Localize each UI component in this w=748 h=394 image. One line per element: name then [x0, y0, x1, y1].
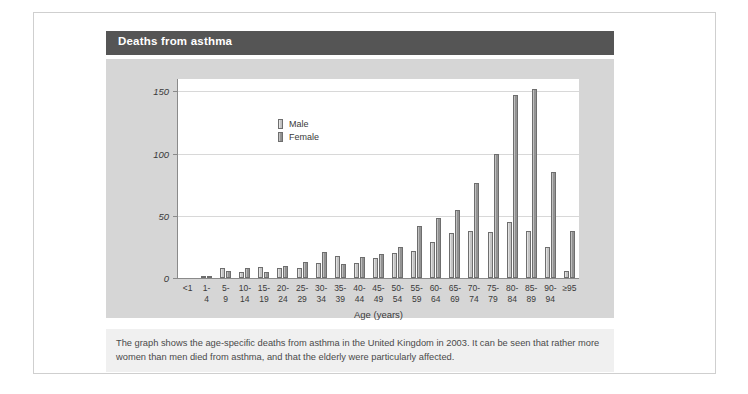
bar-female — [398, 247, 403, 278]
bar-group — [468, 79, 480, 278]
bar-group — [182, 79, 194, 278]
bar-male — [488, 232, 493, 278]
bar-male — [507, 222, 512, 278]
bar-female — [360, 257, 365, 278]
bar-female — [494, 154, 499, 278]
bar-group — [277, 79, 289, 278]
bar-group — [316, 79, 328, 278]
y-axis-tick-label: 0 — [164, 273, 169, 284]
bar-male — [201, 276, 206, 278]
bar-male — [354, 263, 359, 278]
bar-female — [417, 226, 422, 278]
x-axis-title: Age (years) — [178, 309, 579, 320]
figure-caption: The graph shows the age-specific deaths … — [106, 329, 614, 372]
bar-group — [335, 79, 347, 278]
bar-group — [488, 79, 500, 278]
bar-group — [526, 79, 538, 278]
chart-panel: 050100150 Male Female <11-45-910-1415-19… — [106, 59, 614, 318]
bar-male — [411, 251, 416, 278]
chart-title-bar: Deaths from asthma — [106, 31, 614, 55]
bar-female — [226, 271, 231, 278]
bar-male — [392, 253, 397, 278]
bar-male — [297, 268, 302, 278]
bar-male — [277, 268, 282, 278]
y-axis-tick-label: 150 — [153, 86, 169, 97]
bar-female — [551, 172, 556, 278]
bar-female — [513, 95, 518, 278]
bar-male — [220, 268, 225, 278]
bar-group — [392, 79, 404, 278]
figure-caption-text: The graph shows the age-specific deaths … — [116, 336, 604, 364]
bar-male — [449, 233, 454, 278]
bar-group — [545, 79, 557, 278]
bar-group — [373, 79, 385, 278]
bar-group — [354, 79, 366, 278]
bar-female — [303, 262, 308, 278]
bar-female — [245, 268, 250, 278]
page-title: Deaths from asthma — [118, 35, 232, 47]
figure-card: Deaths from asthma 050100150 Male Female… — [33, 12, 716, 374]
bar-male — [335, 256, 340, 278]
y-axis-tick — [173, 216, 178, 217]
x-axis-tick-label: ≥95 — [556, 283, 582, 294]
bar-male — [316, 263, 321, 278]
bar-female — [379, 254, 384, 278]
bar-male — [526, 231, 531, 278]
bar-female — [436, 218, 441, 278]
bar-male — [373, 258, 378, 278]
bar-female — [455, 210, 460, 278]
bar-male — [239, 272, 244, 278]
y-axis-tick — [173, 154, 178, 155]
bar-group — [449, 79, 461, 278]
bar-female — [283, 266, 288, 278]
y-axis-tick — [173, 278, 178, 279]
bar-female — [322, 252, 327, 278]
bar-female — [207, 276, 212, 278]
bar-group — [220, 79, 232, 278]
bar-group — [201, 79, 213, 278]
y-axis-tick-label: 100 — [153, 148, 169, 159]
bar-female — [474, 183, 479, 278]
bar-group — [507, 79, 519, 278]
bar-male — [545, 247, 550, 278]
bar-male — [430, 242, 435, 278]
bar-female — [570, 231, 575, 278]
y-axis-tick — [173, 91, 178, 92]
plot-area: 050100150 Male Female <11-45-910-1415-19… — [177, 79, 579, 279]
bar-female — [341, 264, 346, 278]
bar-female — [264, 272, 269, 278]
bar-male — [468, 231, 473, 278]
bar-female — [532, 89, 537, 278]
bar-group — [411, 79, 423, 278]
bar-group — [430, 79, 442, 278]
bar-group — [239, 79, 251, 278]
bar-male — [564, 271, 569, 278]
bar-group — [564, 79, 576, 278]
bar-group — [258, 79, 270, 278]
bar-male — [258, 267, 263, 278]
y-axis-tick-label: 50 — [158, 210, 169, 221]
bar-group — [297, 79, 309, 278]
